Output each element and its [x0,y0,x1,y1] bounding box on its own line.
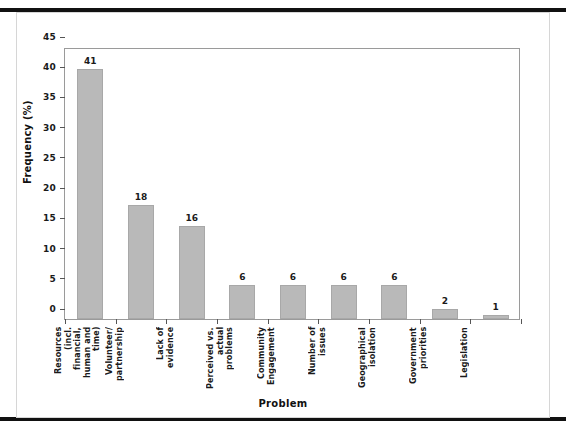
y-axis-tick-label: 5 [50,274,56,284]
bar-value-label: 6 [229,272,255,282]
bar-value-label: 6 [280,272,306,282]
y-axis-tick: 35 [43,92,65,102]
bar-column[interactable]: 16 [179,226,205,319]
y-axis-tick-mark [60,157,65,158]
x-axis-tick-mark [470,319,471,324]
bar[interactable]: 6 [381,285,407,319]
figure-page: Frequency (%) 05101520253035404541181666… [0,0,566,430]
y-axis-tick-mark [60,248,65,249]
bar-value-label: 6 [381,272,407,282]
y-axis-tick-mark [60,97,65,98]
y-axis-tick-mark [60,127,65,128]
bar-column[interactable]: 41 [77,69,103,319]
y-axis-tick: 20 [43,183,65,193]
y-axis-tick-mark [60,188,65,189]
y-axis-tick: 30 [43,123,65,133]
y-axis-tick: 15 [43,213,65,223]
x-axis-category-label: Legislation [460,327,530,395]
x-axis-tick-mark [268,319,269,324]
x-axis-tick-mark [318,319,319,324]
y-axis-tick-label: 10 [43,244,56,254]
y-axis-tick: 10 [43,244,65,254]
bar[interactable]: 6 [280,285,306,319]
bar-value-label: 41 [77,56,103,66]
x-axis-tick-mark [116,319,117,324]
bar[interactable]: 6 [331,285,357,319]
y-axis-tick-label: 45 [43,32,56,42]
y-axis-tick-label: 30 [43,123,56,133]
y-axis-tick: 25 [43,153,65,163]
y-axis-tick-label: 20 [43,183,56,193]
y-axis-tick: 45 [43,32,65,42]
y-axis-tick-mark [60,309,65,310]
x-axis-tick-mark [217,319,218,324]
y-axis-tick: 0 [50,304,65,314]
bar-value-label: 1 [483,302,509,312]
bar[interactable]: 2 [432,309,458,319]
bar-value-label: 16 [179,213,205,223]
bar-value-label: 18 [128,192,154,202]
bar-column[interactable]: 1 [483,315,509,319]
bar-column[interactable]: 6 [331,285,357,319]
bar[interactable]: 1 [483,315,509,319]
x-axis-tick-mark [420,319,421,324]
y-axis-tick-mark [60,278,65,279]
y-axis-tick-label: 40 [43,62,56,72]
bar-column[interactable]: 18 [128,205,154,319]
y-axis-tick-label: 15 [43,213,56,223]
x-axis-tick-mark [521,319,522,324]
x-axis-tick-mark [369,319,370,324]
bar-column[interactable]: 2 [432,309,458,319]
y-axis-tick-mark [60,67,65,68]
bar[interactable]: 18 [128,205,154,319]
y-axis-tick-mark [60,218,65,219]
x-axis-tick-mark [166,319,167,324]
x-axis-title: Problem [0,398,566,409]
y-axis-tick-label: 25 [43,153,56,163]
bar[interactable]: 16 [179,226,205,319]
x-axis-tick-mark [65,319,66,324]
bar-column[interactable]: 6 [280,285,306,319]
y-axis-tick: 40 [43,62,65,72]
bar-value-label: 6 [331,272,357,282]
bar-value-label: 2 [432,296,458,306]
bar-column[interactable]: 6 [381,285,407,319]
bar[interactable]: 6 [229,285,255,319]
y-axis-title: Frequency (%) [22,100,33,184]
y-axis-tick: 5 [50,274,65,284]
y-axis-tick-label: 35 [43,92,56,102]
bar[interactable]: 41 [77,69,103,319]
bar-column[interactable]: 6 [229,285,255,319]
plot-area: 051015202530354045411816666621 [64,48,520,320]
y-axis-tick-label: 0 [50,304,56,314]
y-axis-tick-mark [60,37,65,38]
